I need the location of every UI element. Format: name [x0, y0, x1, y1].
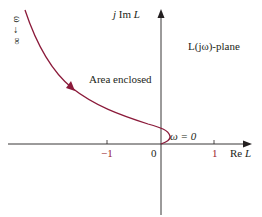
- area-enclosed-text: Area enclosed: [89, 73, 152, 85]
- real-axis-label: Re L: [230, 148, 251, 159]
- imag-axis-label: j Im L: [113, 9, 140, 20]
- omega-zero-text: ω = 0: [170, 130, 196, 142]
- direction-arrow-icon: [66, 81, 75, 91]
- tick-label-pos-one: 1: [212, 148, 218, 159]
- diagram-svg: [0, 0, 262, 217]
- tick-pos-one-text: 1: [212, 147, 218, 159]
- real-axis-prefix: Re: [230, 147, 245, 159]
- area-enclosed-label: Area enclosed: [89, 74, 152, 85]
- plane-label-text: L(jω)-plane: [188, 40, 240, 52]
- real-axis-var: L: [245, 147, 251, 159]
- omega-infinity-label: ω → ∞: [12, 16, 22, 45]
- omega-infinity-text: ω → ∞: [12, 16, 23, 45]
- imag-axis-im: Im: [116, 8, 134, 20]
- tick-label-zero: 0: [151, 148, 157, 159]
- tick-label-neg-one: −1: [101, 148, 113, 159]
- tick-zero-text: 0: [151, 147, 157, 159]
- tick-neg-one-text: −1: [101, 147, 113, 159]
- imag-axis-var: L: [134, 8, 140, 20]
- plane-label: L(jω)-plane: [188, 41, 240, 52]
- imag-axis-arrow-icon: [158, 9, 165, 18]
- omega-zero-label: ω = 0: [170, 131, 196, 142]
- nyquist-diagram: ω → ∞ j Im L L(jω)-plane Area enclosed ω…: [0, 0, 262, 217]
